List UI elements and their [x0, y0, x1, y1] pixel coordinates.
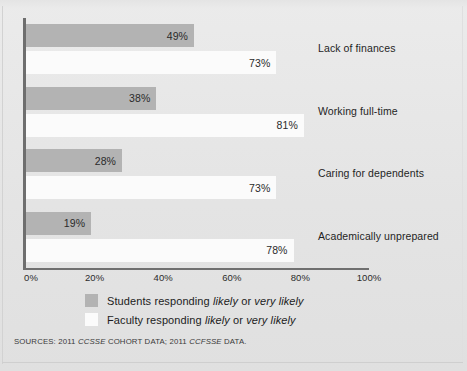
bar-value-label: 78%	[266, 244, 293, 256]
legend-item-students: Students responding likely or very likel…	[85, 291, 304, 310]
bar-value-label: 38%	[129, 92, 156, 104]
legend-swatch-faculty-icon	[85, 313, 98, 326]
sources-note: SOURCES: 2011 CCSSE COHORT DATA; 2011 CC…	[14, 337, 247, 346]
bar-faculty: 73%	[26, 51, 276, 74]
bar-value-label: 19%	[64, 217, 91, 229]
bar-value-label: 49%	[167, 30, 194, 42]
bar-value-label: 28%	[95, 155, 122, 167]
bar-faculty: 73%	[26, 176, 276, 199]
category-label: Academically unprepared	[318, 230, 439, 242]
x-axis-tick-label: 20%	[85, 272, 104, 283]
x-axis-tick-label: 80%	[291, 272, 310, 283]
panel-left-border	[2, 6, 3, 364]
x-axis-tick-label: 100%	[357, 272, 382, 283]
bar-students: 38%	[26, 87, 156, 110]
legend-item-faculty: Faculty responding likely or very likely	[85, 310, 304, 329]
x-axis-tick-label: 60%	[222, 272, 241, 283]
category-label: Lack of finances	[318, 42, 395, 54]
x-axis-tick-label: 0%	[24, 272, 38, 283]
x-axis-tick-labels: 0%20%40%60%80%100%	[26, 272, 426, 286]
category-label: Caring for dependents	[318, 167, 424, 179]
bar-students: 28%	[26, 149, 122, 172]
plot-area: 49%73%Lack of finances38%81%Working full…	[26, 18, 369, 268]
bar-faculty: 78%	[26, 239, 294, 262]
bar-students: 19%	[26, 212, 91, 235]
legend-swatch-students-icon	[85, 294, 98, 307]
legend-label-students: Students responding likely or very likel…	[107, 295, 304, 307]
panel-right-border	[462, 6, 463, 364]
category-label: Working full-time	[318, 105, 398, 117]
bar-value-label: 73%	[249, 182, 276, 194]
x-axis-tick-label: 40%	[154, 272, 173, 283]
bar-students: 49%	[26, 24, 194, 47]
bar-value-label: 73%	[249, 57, 276, 69]
bar-faculty: 81%	[26, 114, 304, 137]
bar-value-label: 81%	[277, 119, 304, 131]
panel-bottom-border	[2, 362, 463, 363]
x-axis-line	[23, 268, 369, 270]
chart-panel: 49%73%Lack of finances38%81%Working full…	[0, 0, 467, 371]
legend-label-faculty: Faculty responding likely or very likely	[107, 314, 296, 326]
page-bleed-strip	[0, 0, 467, 9]
chart-legend: Students responding likely or very likel…	[85, 291, 304, 329]
